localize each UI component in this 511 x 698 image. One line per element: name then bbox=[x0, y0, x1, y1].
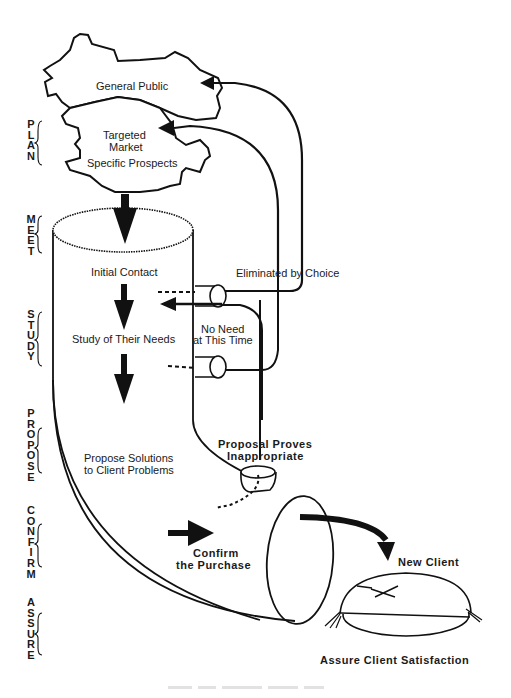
confirm-arrow bbox=[168, 520, 214, 546]
label-study-needs: Study of Their Needs bbox=[72, 333, 175, 345]
label-new-client: New Client bbox=[398, 556, 459, 568]
client-cushion bbox=[325, 573, 482, 636]
exit-pipe-lower bbox=[168, 356, 226, 378]
label-eliminated-by-choice: Eliminated by Choice bbox=[236, 267, 339, 279]
label-proposal-proves: Proposal Proves bbox=[218, 438, 312, 450]
proposal-exit-cup bbox=[215, 466, 276, 508]
label-targeted: Targeted bbox=[103, 129, 146, 141]
label-assure-satisfaction: Assure Client Satisfaction bbox=[320, 654, 469, 666]
label-inappropriate: Inappropriate bbox=[227, 450, 304, 462]
label-general-public: General Public bbox=[96, 80, 168, 92]
label-specific-prospects: Specific Prospects bbox=[87, 157, 177, 169]
label-confirm: Confirm bbox=[193, 547, 239, 559]
label-client-problems: to Client Problems bbox=[84, 464, 174, 476]
label-the-purchase: the Purchase bbox=[176, 559, 251, 571]
confirm-outlet-ellipse bbox=[263, 494, 338, 626]
sales-funnel-diagram bbox=[0, 0, 511, 698]
label-propose-solutions: Propose Solutions bbox=[84, 452, 173, 464]
label-at-this-time: at This Time bbox=[193, 334, 253, 346]
eliminated-return-line bbox=[210, 83, 302, 291]
stage-braces bbox=[0, 0, 60, 698]
label-initial-contact: Initial Contact bbox=[91, 266, 158, 278]
label-market: Market bbox=[109, 141, 143, 153]
figure-caption bbox=[168, 686, 324, 689]
